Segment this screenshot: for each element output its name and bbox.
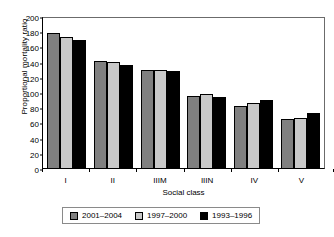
bar bbox=[60, 37, 73, 168]
x-axis-title: Social class bbox=[42, 188, 325, 197]
legend-swatch-icon bbox=[200, 212, 208, 220]
plot-area: 020406080100120140160180200 bbox=[42, 17, 325, 169]
bar-group bbox=[137, 18, 184, 168]
bar-group bbox=[277, 18, 324, 168]
x-axis-tick-mark bbox=[231, 169, 232, 172]
x-axis-tick-mark bbox=[42, 169, 43, 172]
legend-label: 1993–1996 bbox=[212, 211, 252, 220]
legend-item: 2001–2004 bbox=[70, 211, 122, 220]
bar-group bbox=[90, 18, 137, 168]
legend-label: 1997–2000 bbox=[147, 211, 187, 220]
bar bbox=[94, 61, 107, 168]
bar-chart-figure: Proportional mortality ratio 02040608010… bbox=[0, 0, 334, 237]
bar bbox=[120, 65, 133, 168]
x-axis-tick-mark bbox=[184, 169, 185, 172]
bar bbox=[234, 106, 247, 168]
bar-group bbox=[183, 18, 230, 168]
bar bbox=[200, 94, 213, 168]
bar bbox=[141, 70, 154, 168]
x-axis-tick-label: V bbox=[299, 176, 304, 185]
legend-label: 2001–2004 bbox=[82, 211, 122, 220]
x-axis-tick-label: IV bbox=[250, 176, 258, 185]
bar-group bbox=[230, 18, 277, 168]
bar bbox=[47, 33, 60, 168]
bar bbox=[307, 113, 320, 168]
bar bbox=[107, 62, 120, 168]
bar bbox=[167, 71, 180, 168]
legend-swatch-icon bbox=[70, 212, 78, 220]
x-axis-tick-mark bbox=[136, 169, 137, 172]
bar-group bbox=[43, 18, 90, 168]
bar bbox=[154, 70, 167, 168]
bar bbox=[260, 100, 273, 168]
bar bbox=[294, 118, 307, 168]
legend-swatch-icon bbox=[135, 212, 143, 220]
bar bbox=[281, 119, 294, 168]
x-axis-tick-mark bbox=[89, 169, 90, 172]
bar bbox=[213, 97, 226, 168]
legend-item: 1997–2000 bbox=[135, 211, 187, 220]
bar bbox=[187, 96, 200, 168]
chart-legend: 2001–20041997–20001993–1996 bbox=[62, 207, 260, 224]
x-axis-tick-mark bbox=[278, 169, 279, 172]
x-axis-tick-label: IIIN bbox=[201, 176, 213, 185]
x-axis-tick-label: I bbox=[64, 176, 66, 185]
bar-groups bbox=[43, 18, 324, 168]
bar bbox=[73, 40, 86, 168]
x-axis-tick-label: IIIM bbox=[153, 176, 166, 185]
x-axis-tick-label: II bbox=[111, 176, 115, 185]
legend-item: 1993–1996 bbox=[200, 211, 252, 220]
bar bbox=[247, 103, 260, 168]
